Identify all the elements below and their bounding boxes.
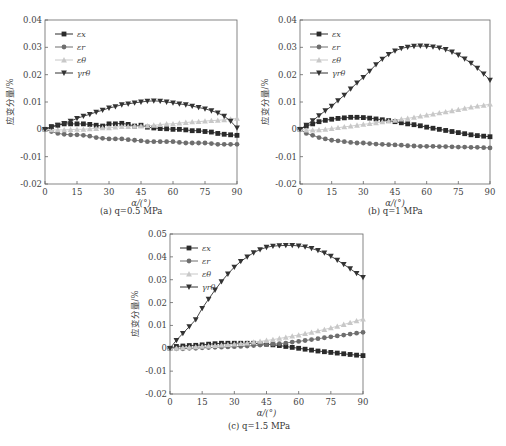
legend-label-er: εr bbox=[77, 43, 86, 52]
legend-er-marker bbox=[62, 45, 67, 50]
y-tick-label: -0.02 bbox=[275, 179, 297, 189]
gamma-marker bbox=[347, 266, 353, 271]
ex-marker bbox=[443, 128, 448, 133]
x-tick-label: 90 bbox=[485, 187, 496, 197]
er-marker bbox=[481, 145, 486, 150]
ex-marker bbox=[196, 128, 201, 133]
gamma-marker bbox=[251, 250, 257, 255]
chart-panel-c: -0.02-0.0100.010.020.030.040.05015304560… bbox=[120, 225, 390, 446]
ex-marker bbox=[367, 116, 372, 121]
x-tick-label: 45 bbox=[261, 397, 272, 407]
y-axis-label: 应变分量/% bbox=[260, 79, 270, 126]
er-marker bbox=[132, 138, 137, 143]
legend-label-etheta: εθ bbox=[202, 270, 211, 279]
ex-marker bbox=[336, 116, 341, 121]
er-marker bbox=[81, 133, 86, 138]
x-tick-label: 15 bbox=[197, 397, 208, 407]
ex-marker bbox=[418, 123, 423, 128]
y-axis-label: 应变分量/% bbox=[5, 79, 15, 126]
er-marker bbox=[215, 142, 220, 147]
er-marker bbox=[405, 143, 410, 148]
ex-marker bbox=[437, 127, 442, 132]
gamma-marker bbox=[462, 56, 468, 61]
x-tick-label: 75 bbox=[325, 397, 336, 407]
gamma-marker bbox=[449, 50, 455, 55]
etheta-marker bbox=[234, 116, 240, 121]
er-marker bbox=[290, 340, 295, 345]
y-axis-label: 应变分量/% bbox=[130, 291, 140, 338]
x-tick-label: 90 bbox=[232, 187, 243, 197]
ex-marker bbox=[335, 351, 340, 356]
x-tick-label: 30 bbox=[229, 397, 240, 407]
y-tick-label: 0.01 bbox=[23, 97, 42, 107]
y-tick-label: 0 bbox=[162, 343, 167, 353]
er-marker bbox=[342, 139, 347, 144]
y-tick-label: 0.02 bbox=[23, 70, 42, 80]
ex-marker bbox=[342, 115, 347, 120]
ex-marker bbox=[203, 129, 208, 134]
legend-label-etheta: εθ bbox=[332, 56, 341, 65]
y-tick-label: 0.04 bbox=[148, 252, 167, 262]
ex-marker bbox=[481, 134, 486, 139]
legend-label-etheta: εθ bbox=[77, 56, 86, 65]
er-marker bbox=[488, 146, 493, 151]
x-tick-label: 15 bbox=[72, 187, 83, 197]
er-marker bbox=[228, 142, 233, 147]
y-tick-label: -0.02 bbox=[145, 389, 167, 399]
x-tick-label: 60 bbox=[421, 187, 432, 197]
er-marker bbox=[354, 331, 359, 336]
gamma-marker bbox=[328, 254, 334, 259]
ex-marker bbox=[450, 129, 455, 134]
x-axis-label: α/(°) bbox=[257, 408, 277, 418]
gamma-marker bbox=[322, 251, 328, 256]
gamma-marker bbox=[398, 46, 404, 51]
er-marker bbox=[283, 341, 288, 346]
x-tick-label: 60 bbox=[293, 397, 304, 407]
ex-marker bbox=[309, 348, 314, 353]
ex-marker bbox=[190, 128, 195, 133]
ex-marker bbox=[412, 122, 417, 127]
er-marker bbox=[412, 144, 417, 149]
gamma-marker bbox=[443, 47, 449, 52]
gamma-marker bbox=[199, 306, 205, 311]
ex-marker bbox=[361, 353, 366, 358]
er-marker bbox=[336, 138, 341, 143]
er-marker bbox=[380, 142, 385, 147]
legend-er-marker bbox=[187, 259, 192, 264]
er-marker bbox=[348, 140, 353, 145]
er-marker bbox=[450, 144, 455, 149]
er-marker bbox=[361, 330, 366, 335]
er-marker bbox=[62, 132, 67, 137]
legend-label-gamma: γrθ bbox=[332, 69, 346, 78]
legend-er-marker bbox=[317, 45, 322, 50]
er-marker bbox=[171, 139, 176, 144]
y-tick-label: 0.01 bbox=[278, 97, 297, 107]
y-tick-label: -0.01 bbox=[145, 366, 167, 376]
legend: εxεrεθγrθ bbox=[180, 244, 216, 292]
gamma-marker bbox=[329, 104, 335, 109]
er-marker bbox=[424, 144, 429, 149]
ex-marker bbox=[361, 115, 366, 120]
ex-marker bbox=[355, 115, 360, 120]
y-tick-label: -0.02 bbox=[20, 179, 42, 189]
gamma-marker bbox=[264, 245, 270, 250]
chart-b-caption: (b) q=1 MPa bbox=[368, 206, 423, 216]
ex-marker bbox=[290, 345, 295, 350]
ex-marker bbox=[209, 130, 214, 135]
ex-marker bbox=[456, 130, 461, 135]
ex-marker bbox=[222, 132, 227, 137]
gamma-marker bbox=[354, 271, 360, 276]
ex-marker bbox=[215, 131, 220, 136]
er-marker bbox=[126, 137, 131, 142]
chart-a: -0.02-0.0100.010.020.030.040153045607590… bbox=[0, 0, 253, 225]
gamma-marker bbox=[244, 254, 250, 259]
er-marker bbox=[469, 145, 474, 150]
legend-label-er: εr bbox=[202, 257, 211, 266]
er-marker bbox=[437, 144, 442, 149]
gamma-marker bbox=[74, 116, 80, 121]
er-marker bbox=[310, 133, 315, 138]
legend-label-gamma: γrθ bbox=[77, 69, 91, 78]
er-marker bbox=[309, 337, 314, 342]
chart-c: -0.02-0.0100.010.020.030.040.05015304560… bbox=[120, 225, 390, 446]
ex-marker bbox=[177, 127, 182, 132]
